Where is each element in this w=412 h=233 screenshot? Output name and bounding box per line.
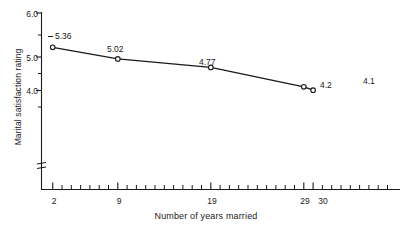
- y-tick-label-5: 5.0: [12, 53, 38, 63]
- y-major-ticks: [36, 13, 42, 91]
- x-axis-title: Number of years married: [0, 211, 412, 221]
- data-label-5: 4.1: [363, 76, 375, 86]
- x-tick-label-2: 2: [44, 196, 64, 206]
- x-tick-label-19: 19: [202, 196, 222, 206]
- data-label-3: 4.77: [199, 57, 216, 67]
- data-label-1: 5.36: [55, 31, 72, 41]
- x-tick-label-29: 29: [295, 196, 315, 206]
- data-point: [50, 45, 55, 50]
- data-label-2: 5.02: [107, 44, 124, 54]
- x-tick-label-9: 9: [109, 196, 129, 206]
- chart-figure: Marital satisfaction rating Number of ye…: [0, 0, 412, 233]
- data-point-markers: [50, 45, 315, 92]
- x-tick-label-30: 30: [313, 196, 333, 206]
- data-point: [302, 85, 307, 90]
- data-line: [53, 47, 313, 90]
- data-point: [116, 57, 121, 62]
- data-label-4: 4.2: [320, 80, 332, 90]
- y-tick-label-4: 4.0: [12, 86, 38, 96]
- y-axis-title: Marital satisfaction rating: [13, 17, 23, 177]
- x-minor-ticks: [62, 185, 388, 190]
- y-tick-label-6: 6.0: [12, 9, 38, 19]
- data-point: [311, 88, 316, 93]
